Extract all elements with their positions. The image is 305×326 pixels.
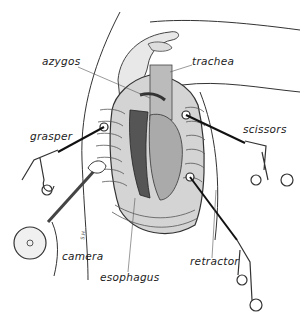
grasper-handle (22, 150, 58, 191)
scissors-handle (245, 141, 268, 180)
label-azygos: azygos (42, 55, 81, 67)
shoulder-outline (150, 20, 300, 30)
camera-eyepiece (14, 227, 46, 259)
arm-outline (182, 83, 300, 92)
label-grasper: grasper (30, 130, 72, 142)
retractor-ring-2 (250, 299, 262, 311)
label-camera: camera (62, 250, 103, 262)
trachea-structure (150, 65, 172, 120)
camera-cable (52, 222, 58, 276)
retractor-ring-1 (237, 275, 247, 285)
retractor-handle (237, 240, 252, 300)
clavicle (148, 42, 172, 51)
camera-port (88, 161, 106, 173)
label-esophagus: esophagus (100, 271, 160, 283)
label-scissors: scissors (243, 123, 287, 135)
label-retractor: retractor (190, 255, 239, 267)
camera-shaft (48, 170, 95, 222)
artist-signature: S.H. (79, 229, 87, 240)
scissors-ring-1 (251, 175, 261, 185)
scissors-ring-2 (281, 174, 293, 186)
label-trachea: trachea (192, 55, 234, 67)
illustration-canvas: S.H. azygos trachea grasper scissors cam… (0, 0, 305, 326)
